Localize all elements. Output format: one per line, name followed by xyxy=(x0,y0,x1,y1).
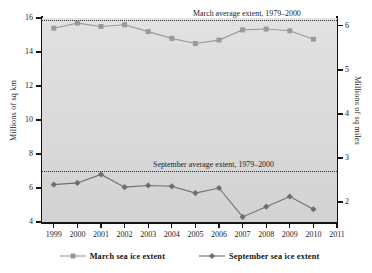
square-marker-icon xyxy=(60,251,86,261)
square-marker-icon xyxy=(217,38,222,43)
y-axis-right-ticklabel: 5 xyxy=(345,65,367,74)
y-axis-left-ticklabel: 16 xyxy=(11,13,33,22)
x-axis-tick xyxy=(148,223,149,228)
x-axis-tick xyxy=(195,223,196,228)
y-axis-right-tick xyxy=(337,113,343,114)
y-axis-left-ticklabel: 10 xyxy=(11,115,33,124)
reference-line-label: September average extent, 1979–2000 xyxy=(153,160,274,169)
diamond-marker-icon xyxy=(209,253,215,259)
x-axis-tick xyxy=(218,223,219,228)
diamond-marker-icon xyxy=(199,251,225,261)
legend-item-september[interactable]: September sea ice extent xyxy=(199,251,319,261)
square-marker-icon xyxy=(193,41,198,46)
diamond-marker-icon xyxy=(74,180,80,186)
square-marker-icon xyxy=(146,29,151,34)
diamond-marker-icon xyxy=(310,206,316,212)
y-axis-right-ticklabel: 2 xyxy=(345,197,367,206)
y-axis-right-ticklabel: 6 xyxy=(345,21,367,30)
series-line xyxy=(54,23,314,43)
legend-label: March sea ice extent xyxy=(90,252,165,261)
y-axis-right-tick xyxy=(337,25,343,26)
diamond-marker-icon xyxy=(51,182,57,188)
data-series-layer xyxy=(42,18,337,222)
y-axis-right-ticklabel: 3 xyxy=(345,153,367,162)
x-axis-line xyxy=(41,222,338,224)
chart-legend: March sea ice extentSeptember sea ice ex… xyxy=(42,248,337,264)
x-axis-tick xyxy=(242,223,243,228)
square-marker-icon xyxy=(51,26,56,31)
y-axis-left-ticklabel: 4 xyxy=(11,217,33,226)
square-marker-icon xyxy=(75,21,80,26)
diamond-marker-icon xyxy=(169,183,175,189)
series-march xyxy=(51,21,316,46)
diamond-marker-icon xyxy=(192,190,198,196)
y-axis-right-tick xyxy=(337,201,343,202)
y-axis-left-ticklabel: 8 xyxy=(11,149,33,158)
x-axis-tick xyxy=(124,223,125,228)
square-marker-icon xyxy=(240,27,245,32)
x-axis-ticklabel: 2011 xyxy=(320,230,354,239)
x-axis-tick xyxy=(100,223,101,228)
x-axis-tick xyxy=(266,223,267,228)
plot-area xyxy=(42,18,337,222)
y-axis-right-tick xyxy=(337,157,343,158)
x-axis-tick xyxy=(336,223,337,228)
square-marker-icon xyxy=(311,37,316,42)
x-axis-tick xyxy=(313,223,314,228)
square-marker-icon xyxy=(169,36,174,41)
square-marker-icon xyxy=(287,28,292,33)
x-axis-tick xyxy=(53,223,54,228)
y-axis-left-ticklabel: 14 xyxy=(11,47,33,56)
y-axis-left-ticklabel: 6 xyxy=(11,183,33,192)
square-marker-icon xyxy=(122,22,127,27)
sea-ice-extent-chart: Millions of sq km Millions of sq miles 4… xyxy=(0,0,372,273)
diamond-marker-icon xyxy=(263,204,269,210)
series-september xyxy=(51,171,317,220)
square-marker-icon xyxy=(264,27,269,32)
square-marker-icon xyxy=(70,254,75,259)
x-axis-tick xyxy=(171,223,172,228)
series-line xyxy=(54,174,314,217)
legend-label: September sea ice extent xyxy=(229,252,319,261)
diamond-marker-icon xyxy=(287,193,293,199)
square-marker-icon xyxy=(99,24,104,29)
x-axis-tick xyxy=(77,223,78,228)
reference-line-label: March average extent, 1979–2000 xyxy=(193,9,301,18)
y-axis-right-tick xyxy=(337,69,343,70)
legend-item-march[interactable]: March sea ice extent xyxy=(60,251,165,261)
y-axis-right-ticklabel: 4 xyxy=(345,109,367,118)
diamond-marker-icon xyxy=(98,171,104,177)
y-axis-left-ticklabel: 12 xyxy=(11,81,33,90)
x-axis-tick xyxy=(289,223,290,228)
diamond-marker-icon xyxy=(145,182,151,188)
diamond-marker-icon xyxy=(122,184,128,190)
